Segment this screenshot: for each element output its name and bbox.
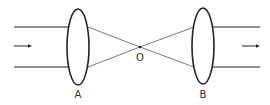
arrow-right-icon xyxy=(14,44,32,47)
diverging-ray-top xyxy=(140,27,194,47)
converging-ray-top xyxy=(88,27,140,47)
lens-a xyxy=(67,9,89,85)
lens-b xyxy=(192,8,214,84)
arrow-right-icon xyxy=(242,44,260,47)
lens-a-label: A xyxy=(75,89,82,100)
diverging-ray-bottom xyxy=(140,47,194,67)
converging-ray-bottom xyxy=(88,47,140,67)
focal-point-label: O xyxy=(136,52,144,63)
focal-point-dot xyxy=(139,46,142,49)
lens-diagram: A O B xyxy=(0,0,270,105)
lens-b-label: B xyxy=(200,89,207,100)
